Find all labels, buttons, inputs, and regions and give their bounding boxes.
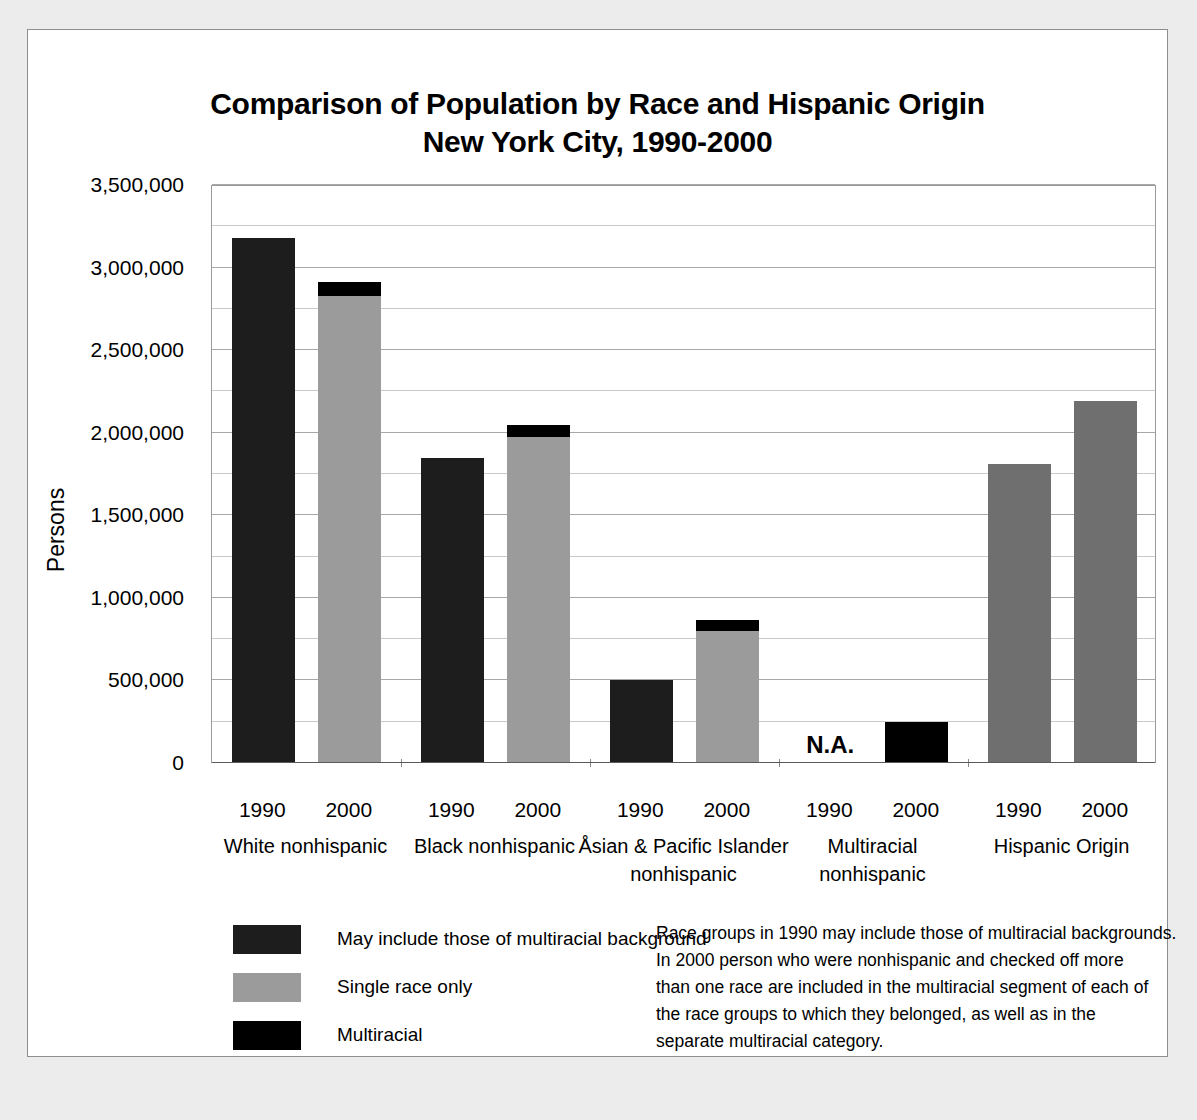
bar [507, 425, 570, 763]
bar-segment-multiracial [507, 425, 570, 437]
bar [232, 238, 295, 763]
legend-label: Multiracial [337, 1024, 423, 1046]
bar-segment-multiracial [318, 282, 381, 295]
x-axis-group-label: Åsian & Pacific Islandernonhispanic [577, 832, 790, 888]
y-axis-tick-label: 0 [172, 751, 184, 775]
footnote-line: separate multiracial category. [656, 1028, 1126, 1055]
bar-segment-single-race [318, 296, 381, 763]
footnote-line: Race groups in 1990 may include those of… [656, 920, 1126, 947]
bar-segment-total [988, 464, 1051, 763]
y-axis-tick-labels: 3,500,0003,000,0002,500,0002,000,0001,50… [28, 185, 198, 763]
bar-series: N.A. [212, 186, 1155, 763]
bar [610, 680, 673, 763]
x-axis-group-label-line: Hispanic Origin [955, 832, 1168, 860]
x-axis-group-label-line: Åsian & Pacific Islander [577, 832, 790, 860]
footnote-line: the race groups to which they belonged, … [656, 1001, 1126, 1028]
footnote-line: than one race are included in the multir… [656, 974, 1126, 1001]
y-axis-tick-label: 3,000,000 [91, 256, 184, 280]
x-axis-group-label: Black nonhispanic [388, 832, 601, 860]
x-axis-group-label-line: nonhispanic [577, 860, 790, 888]
y-axis-tick-label: 500,000 [108, 668, 184, 692]
x-axis-year-label: 1990 [595, 798, 685, 822]
x-axis-year-label: 2000 [493, 798, 583, 822]
x-axis-year-label: 2000 [871, 798, 961, 822]
x-axis-group-label: Multiracialnonhispanic [766, 832, 979, 888]
bar [1074, 401, 1137, 763]
bar-segment-total [885, 722, 948, 763]
x-axis-group-label-line: nonhispanic [766, 860, 979, 888]
x-axis-year-label: 2000 [304, 798, 394, 822]
y-axis-tick-label: 1,000,000 [91, 586, 184, 610]
axis-group-separator [401, 759, 402, 767]
x-axis-group-label-line: Black nonhispanic [388, 832, 601, 860]
legend-label: Single race only [337, 976, 472, 998]
x-axis-year-label: 2000 [682, 798, 772, 822]
axis-group-separator [968, 759, 969, 767]
gridline [212, 184, 1155, 185]
x-axis-year-label: 1990 [973, 798, 1063, 822]
axis-group-separator [590, 759, 591, 767]
chart-title: Comparison of Population by Race and His… [28, 85, 1167, 161]
legend-item: May include those of multiracial backgro… [233, 915, 707, 963]
legend-swatch [233, 1021, 301, 1050]
bar [988, 464, 1051, 763]
chart-title-line-2: New York City, 1990-2000 [28, 123, 1167, 161]
bar-segment-total [610, 680, 673, 763]
bar-segment-single-race [507, 437, 570, 763]
bar [885, 722, 948, 763]
x-axis-group-label-line: Multiracial [766, 832, 979, 860]
bar [318, 282, 381, 763]
chart-footnote: Race groups in 1990 may include those of… [656, 920, 1126, 1055]
y-axis-tick-label: 2,000,000 [91, 421, 184, 445]
y-axis-tick-label: 1,500,000 [91, 503, 184, 527]
legend-swatch [233, 973, 301, 1002]
axis-group-separator [779, 759, 780, 767]
not-available-label: N.A. [770, 731, 890, 759]
x-axis-group-label-line: White nonhispanic [199, 832, 412, 860]
x-axis-labels: 19902000White nonhispanic19902000Black n… [211, 792, 1156, 902]
y-axis-tick-label: 3,500,000 [91, 173, 184, 197]
bar [696, 620, 759, 763]
x-axis-group-label: White nonhispanic [199, 832, 412, 860]
bar [421, 458, 484, 764]
plot-area: N.A. [211, 185, 1156, 763]
chart-page: Comparison of Population by Race and His… [27, 29, 1168, 1057]
bar-segment-single-race [696, 631, 759, 763]
y-axis-tick-label: 2,500,000 [91, 338, 184, 362]
chart-title-line-1: Comparison of Population by Race and His… [28, 85, 1167, 123]
legend-item: Single race only [233, 963, 707, 1011]
bar-segment-total [421, 458, 484, 764]
x-axis-year-label: 1990 [784, 798, 874, 822]
chart-legend: May include those of multiracial backgro… [233, 915, 707, 1059]
x-axis-group-label: Hispanic Origin [955, 832, 1168, 860]
legend-swatch [233, 925, 301, 954]
bar-segment-multiracial [696, 620, 759, 631]
x-axis-year-label: 2000 [1060, 798, 1150, 822]
footnote-line: In 2000 person who were nonhispanic and … [656, 947, 1126, 974]
bar-segment-total [232, 238, 295, 763]
axis-baseline [212, 762, 1155, 763]
legend-label: May include those of multiracial backgro… [337, 928, 707, 950]
x-axis-year-label: 1990 [406, 798, 496, 822]
legend-item: Multiracial [233, 1011, 707, 1059]
bar-segment-total [1074, 401, 1137, 763]
x-axis-year-label: 1990 [217, 798, 307, 822]
